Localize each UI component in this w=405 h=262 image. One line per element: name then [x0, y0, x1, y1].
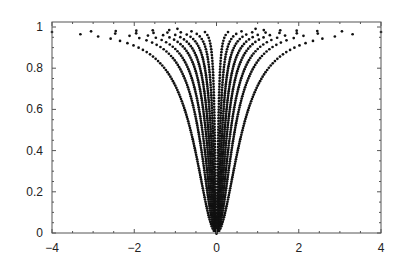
data-point [154, 36, 157, 39]
data-point [251, 31, 254, 34]
chart: −4−2024 00.20.40.60.81 [0, 0, 405, 262]
data-point [196, 160, 199, 163]
data-point [274, 60, 277, 63]
data-point [271, 46, 274, 49]
data-point [216, 214, 219, 217]
data-point [199, 174, 202, 177]
data-point [230, 76, 233, 79]
data-point [254, 41, 257, 44]
data-point [234, 126, 237, 129]
data-point [220, 104, 223, 107]
data-point [198, 171, 201, 174]
data-point [235, 42, 238, 45]
data-point [219, 68, 222, 71]
data-point [147, 34, 150, 37]
data-point [168, 36, 171, 39]
data-point [159, 46, 162, 49]
x-tick-label: 4 [378, 241, 385, 255]
data-point [230, 99, 233, 102]
data-point [165, 50, 168, 53]
data-point [138, 37, 141, 40]
data-point [196, 99, 199, 102]
data-point [351, 33, 354, 36]
data-point [154, 57, 157, 60]
data-point [176, 41, 179, 44]
data-point [209, 81, 212, 84]
data-point [205, 203, 208, 206]
data-point [271, 62, 274, 65]
data-point [232, 169, 235, 172]
data-point [263, 52, 266, 55]
data-point [168, 29, 171, 32]
data-point [216, 189, 219, 192]
data-point [222, 71, 225, 74]
data-point [229, 79, 232, 82]
data-point [241, 35, 244, 38]
data-point [254, 50, 257, 53]
data-point [135, 29, 138, 32]
data-point [245, 33, 248, 36]
data-point [221, 42, 224, 45]
data-point [212, 85, 215, 88]
data-point [213, 108, 216, 111]
data-point [135, 32, 138, 35]
data-point [292, 37, 295, 40]
data-point [334, 35, 337, 38]
data-point [203, 194, 206, 197]
data-point [217, 125, 220, 128]
data-point [234, 160, 237, 163]
data-point [236, 151, 239, 154]
data-point [235, 95, 238, 98]
data-point [189, 45, 192, 48]
data-point [217, 151, 220, 154]
data-point [234, 124, 237, 127]
data-point [196, 158, 199, 161]
data-point [200, 95, 203, 98]
data-point [264, 71, 267, 74]
data-point [209, 86, 212, 89]
data-point [214, 148, 217, 151]
data-point [247, 47, 250, 50]
data-point [185, 33, 188, 36]
data-point [208, 73, 211, 76]
data-point [109, 37, 112, 40]
data-point [197, 165, 200, 168]
data-point [185, 40, 188, 43]
data-point [160, 39, 163, 42]
data-point [276, 36, 279, 39]
data-point [199, 67, 202, 70]
data-point [302, 34, 305, 37]
data-point [235, 158, 238, 161]
data-point [229, 185, 232, 188]
data-point [236, 149, 239, 152]
data-point [216, 191, 219, 194]
data-point [220, 94, 223, 97]
data-point [216, 174, 219, 177]
data-point [209, 84, 212, 87]
data-point [166, 31, 169, 34]
data-point [222, 73, 225, 76]
data-point [235, 97, 238, 100]
data-point [218, 82, 221, 85]
data-point [210, 104, 213, 107]
data-point [213, 97, 216, 100]
data-point [226, 200, 229, 203]
data-point [226, 72, 229, 75]
data-point [258, 38, 261, 41]
data-point [198, 167, 201, 170]
data-point [214, 151, 217, 154]
data-point [204, 31, 207, 34]
data-point [259, 45, 262, 48]
data-point [224, 56, 227, 59]
data-point [196, 77, 199, 80]
data-point [227, 198, 230, 201]
data-point [211, 62, 214, 65]
data-point [221, 45, 224, 48]
data-point [238, 140, 241, 143]
data-point [197, 131, 200, 134]
data-point [245, 50, 248, 53]
data-point [237, 147, 240, 150]
data-point [198, 35, 201, 38]
data-point [230, 38, 233, 41]
data-point [229, 81, 232, 84]
